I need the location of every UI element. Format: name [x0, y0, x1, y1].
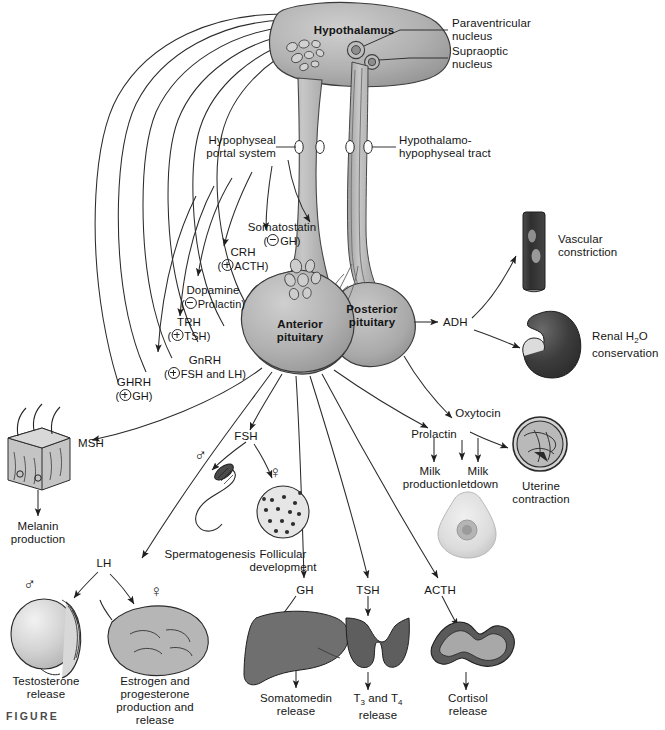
milk-letdown-label: Milkletdown: [458, 465, 498, 491]
testis-icon: [11, 599, 81, 678]
anterior-pituitary-shape: [241, 258, 354, 374]
cortisol-release-label: Cortisolrelease: [448, 692, 488, 718]
ghrh-label: GHRH (GH): [115, 376, 152, 403]
adrenal-gland-icon: [431, 622, 514, 666]
renal-conservation-label: Renal H2O conservation: [592, 330, 658, 360]
blood-vessel-icon: [523, 212, 545, 292]
paraventricular-nucleus-line2: nucleus: [452, 30, 492, 42]
breast-icon: [438, 492, 496, 558]
hypothalamo-tract-line1: Hypothalamo-: [399, 134, 472, 146]
figure-canvas: Hypothalamus Paraventricular nucleus Sup…: [0, 0, 665, 730]
posterior-pituitary-line1: Posterior: [346, 303, 397, 315]
gnrh-effect: (FSH and LH): [164, 368, 246, 380]
plus-sign-icon: [221, 259, 233, 271]
testosterone-release-label: Testosteronerelease: [12, 675, 79, 701]
hypothalamo-tract-line2: hypophyseal tract: [399, 147, 491, 159]
uterus-icon: [513, 417, 567, 471]
thyroid-icon: [346, 618, 409, 668]
crh-effect: (ACTH): [218, 260, 269, 272]
male-symbol-lh: ♂: [23, 578, 36, 591]
female-symbol-fsh: ♀: [269, 466, 282, 479]
hypophyseal-portal-line2: portal system: [206, 147, 276, 159]
trh-effect: (TSH): [168, 330, 211, 342]
prolactin-label: Prolactin: [411, 428, 457, 441]
paraventricular-nucleus-label: Paraventricular nucleus: [452, 17, 531, 43]
gh-label: GH: [296, 584, 313, 597]
dopamine-effect: (Prolactin): [181, 298, 245, 310]
ghrh-name: GHRH: [117, 376, 151, 388]
supraoptic-nucleus-label: Supraoptic nucleus: [452, 45, 508, 71]
somatostatin-effect: (GH): [263, 235, 300, 247]
dopamine-label: Dopamine (Prolactin): [181, 284, 245, 311]
gnrh-label: GnRH (FSH and LH): [164, 354, 246, 381]
trh-name: TRH: [177, 316, 201, 328]
plus-sign-icon: [171, 329, 183, 341]
ovarian-follicle-icon: [257, 486, 309, 538]
crh-name: CRH: [230, 246, 255, 258]
pituitary-stalk-group: [276, 62, 396, 288]
tsh-label: TSH: [356, 584, 379, 597]
sperm-icon: [196, 461, 236, 531]
minus-sign-icon: [185, 297, 197, 309]
hypothalamo-hypophyseal-tract-label: Hypothalamo- hypophyseal tract: [399, 134, 491, 160]
supraoptic-nucleus-line2: nucleus: [452, 58, 492, 70]
vascular-constriction-label: Vascularconstriction: [558, 233, 617, 259]
crh-label: CRH (ACTH): [218, 246, 269, 273]
estrogen-progesterone-label: Estrogen and progesterone production and…: [116, 675, 194, 727]
somatostatin-name: Somatostatin: [248, 221, 316, 233]
plus-sign-icon: [168, 367, 180, 379]
acth-label: ACTH: [424, 584, 456, 597]
uterine-contraction-label: Uterinecontraction: [512, 480, 569, 506]
lh-label: LH: [97, 557, 112, 570]
plus-sign-icon: [119, 389, 131, 401]
supraoptic-nucleus-line1: Supraoptic: [452, 45, 508, 57]
hypothalamus-label: Hypothalamus: [314, 24, 394, 37]
anterior-pituitary-line2: pituitary: [277, 331, 323, 343]
adh-label: ADH: [443, 316, 468, 329]
skin-block-icon: [8, 404, 70, 490]
somatostatin-label: Somatostatin (GH): [248, 221, 316, 248]
fsh-label: FSH: [234, 430, 257, 443]
t3-t4-release-label: T3 and T4 release: [353, 692, 402, 722]
trh-label: TRH (TSH): [168, 316, 211, 343]
hypophyseal-portal-system-label: Hypophyseal portal system: [206, 134, 276, 160]
hypophyseal-portal-line1: Hypophyseal: [208, 134, 276, 146]
spermatogenesis-label: Spermatogenesis: [165, 548, 256, 561]
msh-label: MSH: [78, 437, 104, 450]
milk-production-label: Milkproduction: [403, 465, 458, 491]
follicular-development-label: Folliculardevelopment: [250, 548, 317, 574]
posterior-pituitary-line2: pituitary: [349, 316, 395, 328]
anterior-pituitary-line1: Anterior: [277, 318, 323, 330]
ovary-icon: [100, 600, 208, 675]
minus-sign-icon: [267, 234, 279, 246]
male-symbol-fsh: ♂: [194, 449, 207, 462]
melanin-production-label: Melaninproduction: [11, 520, 66, 546]
paraventricular-nucleus-line1: Paraventricular: [452, 17, 531, 29]
paraventricular-nucleus-shape: [347, 41, 364, 58]
figure-tag: FIGURE: [6, 710, 59, 722]
anterior-pituitary-label: Anterior pituitary: [277, 318, 323, 344]
dopamine-name: Dopamine: [186, 284, 239, 296]
gnrh-name: GnRH: [189, 354, 221, 366]
ghrh-effect: (GH): [115, 390, 152, 402]
somatomedin-release-label: Somatomedinrelease: [260, 692, 332, 718]
kidney-icon: [523, 311, 581, 378]
posterior-pituitary-label: Posterior pituitary: [346, 303, 397, 329]
female-symbol-lh: ♀: [150, 585, 163, 598]
oxytocin-label: Oxytocin: [455, 407, 501, 420]
diagram-graphics: [0, 0, 665, 730]
